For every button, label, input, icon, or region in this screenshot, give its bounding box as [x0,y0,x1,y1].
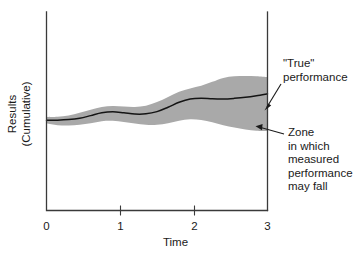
y-axis-title-line-2: (Cumulative) [19,81,33,146]
annotation-zone-line-1: Zone [288,126,353,140]
x-axis-title: Time [0,236,351,248]
annotation-zone-line-5: may fall [288,180,353,194]
y-axis-title-line-1: Results [5,95,19,133]
x-axis-tick-labels: 0 1 2 3 [43,220,270,232]
annotation-true-line-2: performance [283,71,348,85]
annotation-zone-line-4: performance [288,167,353,181]
measurement-zone-band [47,76,268,131]
annotation-true-line-1: "True" [283,57,348,71]
xtick-label-1: 1 [117,220,123,232]
y-axis-title: Results (Cumulative) [0,49,38,179]
annotation-measurement-zone: Zone in which measured performance may f… [288,126,353,194]
true-performance-leader-line [267,84,281,107]
xtick-label-0: 0 [43,220,49,232]
xtick-label-2: 2 [191,220,197,232]
annotation-zone-line-2: in which [288,140,353,154]
zone-band-shape [47,76,268,131]
annotation-zone-line-3: measured [288,153,353,167]
annotation-true-performance: "True" performance [283,57,348,84]
xtick-label-3: 3 [264,220,270,232]
